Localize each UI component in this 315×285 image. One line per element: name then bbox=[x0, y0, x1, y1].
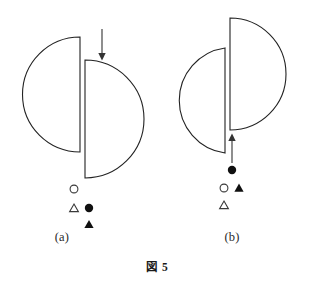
filled-circle-marker-b bbox=[228, 166, 236, 174]
panel-label-a: (a) bbox=[0, 230, 142, 245]
panel-a-diagram bbox=[0, 0, 160, 255]
figure-caption: 図 5 bbox=[0, 258, 315, 274]
marker-group-a bbox=[70, 185, 94, 228]
figure-panel-a: (a) bbox=[0, 0, 160, 255]
open-circle-marker-b bbox=[220, 184, 228, 192]
right-half-disc-b bbox=[230, 18, 286, 130]
marker-group-b bbox=[220, 166, 244, 209]
figure-panel-b: (b) bbox=[155, 0, 315, 255]
up-arrow-b bbox=[228, 134, 235, 164]
panel-label-b: (b) bbox=[152, 230, 312, 245]
filled-triangle-marker-a bbox=[84, 220, 93, 228]
left-half-disc-a bbox=[22, 37, 80, 152]
figure-container: (a) (b) 図 5 bbox=[0, 0, 315, 285]
left-half-disc-b bbox=[179, 48, 225, 153]
right-half-disc-a bbox=[85, 60, 144, 178]
open-triangle-marker-b bbox=[220, 201, 229, 209]
down-arrow-a bbox=[98, 29, 105, 61]
filled-circle-marker-a bbox=[85, 204, 93, 212]
open-circle-marker-a bbox=[70, 185, 78, 193]
panel-b-diagram bbox=[155, 0, 315, 255]
filled-triangle-marker-b bbox=[234, 184, 243, 192]
open-triangle-marker-a bbox=[70, 204, 79, 212]
